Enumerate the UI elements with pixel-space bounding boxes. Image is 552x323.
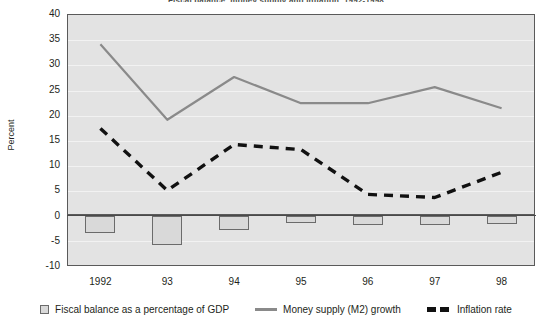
x-axis-tick-label: 93 <box>137 276 197 287</box>
box-swatch-icon <box>40 305 49 314</box>
series-lines <box>67 14 535 266</box>
y-axis-tick-label: 25 <box>20 85 60 95</box>
chart-title: Fiscal balance, money supply and inflati… <box>0 0 552 2</box>
y-axis-tick-label: 35 <box>20 34 60 44</box>
money-supply-line <box>100 44 501 120</box>
y-axis-tick-label: -10 <box>20 261 60 271</box>
legend-label-money-supply: Money supply (M2) growth <box>283 304 401 315</box>
y-axis-tick-label: 20 <box>20 110 60 120</box>
y-axis-tick-label: 15 <box>20 135 60 145</box>
chart-figure: Fiscal balance, money supply and inflati… <box>0 0 552 323</box>
x-axis-tick-label: 97 <box>405 276 465 287</box>
y-axis-tick-label: 40 <box>20 9 60 19</box>
x-axis-tick-label: 95 <box>271 276 331 287</box>
legend-label-fiscal-balance: Fiscal balance as a percentage of GDP <box>55 304 229 315</box>
y-axis-tick-label: 10 <box>20 160 60 170</box>
y-axis-tick-label: 0 <box>20 211 60 221</box>
x-axis-tick-label: 96 <box>338 276 398 287</box>
legend-item-money-supply: Money supply (M2) growth <box>255 304 401 315</box>
legend-item-inflation: Inflation rate <box>427 304 512 315</box>
y-axis-tick-label: 5 <box>20 185 60 195</box>
y-axis-tick-label: -5 <box>20 236 60 246</box>
legend-item-fiscal-balance: Fiscal balance as a percentage of GDP <box>40 304 229 315</box>
legend-label-inflation: Inflation rate <box>457 304 512 315</box>
y-axis-title: Percent <box>6 100 16 170</box>
dashed-line-icon <box>427 307 451 312</box>
x-axis-tick-label: 94 <box>204 276 264 287</box>
solid-line-icon <box>255 308 277 311</box>
x-axis-tick-label: 98 <box>472 276 532 287</box>
y-axis-tick-label: 30 <box>20 59 60 69</box>
inflation-line <box>100 128 501 197</box>
chart-legend: Fiscal balance as a percentage of GDP Mo… <box>0 300 552 318</box>
x-axis-tick-label: 1992 <box>70 276 130 287</box>
